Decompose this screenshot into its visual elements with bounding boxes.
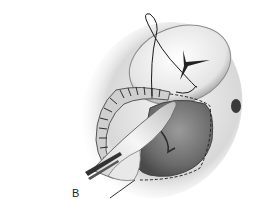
- nodule: [231, 99, 241, 113]
- surgical-illustration: B: [0, 0, 260, 210]
- panel-label: B: [72, 187, 79, 199]
- illustration-drawing: [0, 0, 260, 210]
